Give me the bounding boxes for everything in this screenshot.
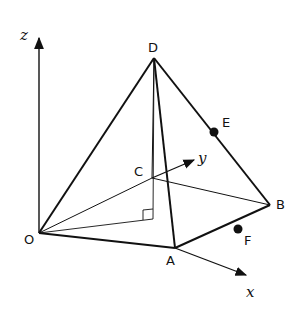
edge-OA xyxy=(39,233,175,248)
label-F: F xyxy=(244,233,251,248)
x-axis xyxy=(175,248,246,275)
edge-AB xyxy=(175,205,270,248)
edge-AD xyxy=(154,58,175,248)
point-F xyxy=(234,225,243,234)
label-E: E xyxy=(222,115,230,130)
pyramid-diagram: z y x D E C B F O A xyxy=(0,0,307,330)
line-O-to-foot xyxy=(39,219,153,233)
right-angle-marker xyxy=(143,209,153,220)
x-axis-label: x xyxy=(246,283,255,301)
z-axis-label: z xyxy=(19,26,28,44)
label-C: C xyxy=(134,164,143,179)
label-D: D xyxy=(148,40,158,55)
label-A: A xyxy=(166,253,175,268)
edge-OD xyxy=(39,58,154,233)
label-O: O xyxy=(24,232,34,247)
label-B: B xyxy=(276,197,285,212)
point-E xyxy=(210,128,219,137)
y-axis-label: y xyxy=(197,149,207,167)
y-axis xyxy=(152,160,194,178)
